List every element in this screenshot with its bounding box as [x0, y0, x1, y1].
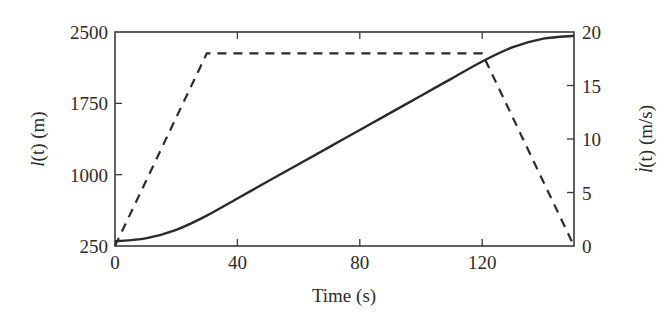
y-right-tick-label: 10: [582, 129, 601, 150]
y-right-tick-label: 20: [582, 22, 601, 43]
y-left-arg: (t): [27, 143, 49, 161]
y-left-tick-label: 250: [80, 236, 109, 257]
plot-series: [115, 36, 574, 246]
y-left-tick-label: 1750: [70, 93, 108, 114]
y-left-tick-label: 1000: [70, 165, 108, 186]
y-left-unit: (m): [27, 111, 49, 143]
y-left-tick-label: 2500: [70, 22, 108, 43]
y-axis-right-title: l̇(t) (m/s): [634, 105, 657, 173]
y-right-unit: (m/s): [635, 105, 657, 150]
y-axis-left-title: l(t) (m): [27, 111, 49, 166]
x-tick-label: 40: [228, 252, 247, 273]
position-curve: [115, 36, 574, 241]
y-right-tick-label: 15: [582, 76, 601, 97]
chart: 0408012025010001750250005101520 Time (s)…: [0, 0, 666, 314]
x-tick-label: 80: [350, 252, 369, 273]
x-tick-label: 120: [468, 252, 497, 273]
x-axis-title: Time (s): [312, 285, 376, 307]
velocity-curve: [115, 53, 574, 246]
y-right-tick-label: 0: [582, 236, 592, 257]
y-right-arg: (t): [635, 150, 657, 168]
tick-labels: 0408012025010001750250005101520: [70, 22, 601, 273]
y-right-tick-label: 5: [582, 183, 592, 204]
chart-canvas: 0408012025010001750250005101520 Time (s)…: [0, 0, 666, 314]
x-tick-label: 0: [110, 252, 120, 273]
